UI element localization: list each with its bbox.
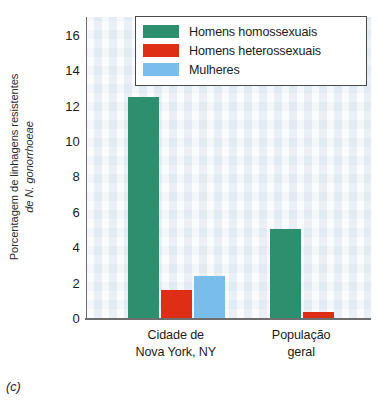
legend-item: Mulheres: [143, 60, 359, 79]
legend-label-mulheres: Mulheres: [189, 63, 240, 77]
bar: [194, 276, 225, 318]
x-axis-category-labels: Cidade deNova York, NYPopulaçãogeral: [86, 327, 371, 373]
bar: [128, 97, 159, 318]
plot-area: Homens homossexuais Homens heterossexuai…: [86, 17, 371, 318]
legend-swatch-homens-heterossexuais: [143, 44, 179, 57]
y-axis-tick-label: 14: [44, 63, 80, 78]
y-axis-tick-labels: 0246810121416: [44, 0, 80, 403]
bar: [303, 312, 334, 318]
x-axis-category-label-line1: Cidade de: [116, 327, 236, 344]
x-axis-category-label: Cidade deNova York, NY: [116, 327, 236, 361]
bar: [161, 290, 192, 318]
y-axis-title-text: Porcentagem de linhagens resistentes de …: [7, 74, 36, 261]
y-axis-title-line2: de N. gonorrhoeae: [21, 74, 36, 261]
panel-caption: (c): [6, 380, 21, 394]
y-axis-title: Porcentagem de linhagens resistentes de …: [0, 14, 42, 320]
bar: [270, 229, 301, 318]
y-axis-tick-label: 6: [44, 204, 80, 219]
y-axis-tick-label: 2: [44, 275, 80, 290]
legend: Homens homossexuais Homens heterossexuai…: [135, 16, 367, 86]
x-axis-category-label: Populaçãogeral: [241, 327, 361, 361]
y-axis-tick-label: 10: [44, 133, 80, 148]
y-axis-tick-label: 12: [44, 98, 80, 113]
y-axis-title-line1: Porcentagem de linhagens resistentes: [7, 74, 22, 261]
y-axis-tick-label: 8: [44, 169, 80, 184]
x-axis-category-label-line2: Nova York, NY: [116, 344, 236, 361]
bar-chart-figure: Porcentagem de linhagens resistentes de …: [0, 0, 378, 403]
x-axis-category-label-line2: geral: [241, 344, 361, 361]
x-axis-category-label-line1: População: [241, 327, 361, 344]
legend-swatch-homens-homossexuais: [143, 25, 179, 38]
y-axis-tick-label: 0: [44, 311, 80, 326]
legend-swatch-mulheres: [143, 63, 179, 76]
y-axis-tick-label: 16: [44, 27, 80, 42]
y-axis-tick-label: 4: [44, 240, 80, 255]
legend-label-homens-homossexuais: Homens homossexuais: [189, 25, 317, 39]
legend-item: Homens homossexuais: [143, 22, 359, 41]
legend-item: Homens heterossexuais: [143, 41, 359, 60]
legend-label-homens-heterossexuais: Homens heterossexuais: [189, 44, 321, 58]
